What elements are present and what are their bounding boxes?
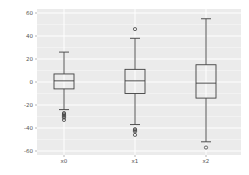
- x-tick-label-x2: x2: [203, 158, 210, 164]
- y-tick-label: 0: [30, 79, 34, 85]
- y-tick-label: 40: [26, 33, 33, 39]
- y-axis: -60-40-200204060: [24, 10, 37, 154]
- y-tick-label: -40: [24, 125, 33, 131]
- y-tick-label: -60: [24, 148, 33, 154]
- y-tick-label: 20: [26, 56, 33, 62]
- box-plot-chart: -60-40-200204060 x0x1x2: [0, 0, 249, 175]
- y-tick-label: -20: [24, 102, 33, 108]
- x-axis: x0x1x2: [61, 155, 210, 164]
- x-tick-label-x1: x1: [132, 158, 139, 164]
- x-tick-label-x0: x0: [61, 158, 68, 164]
- y-tick-label: 60: [26, 10, 33, 16]
